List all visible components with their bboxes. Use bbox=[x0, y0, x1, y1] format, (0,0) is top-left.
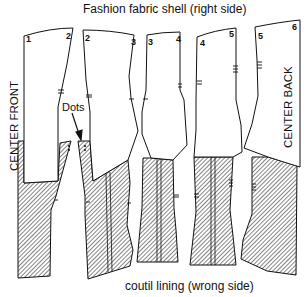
piece-number-label: 3 bbox=[148, 37, 153, 47]
lining-piece-3 bbox=[137, 158, 178, 262]
corset-pattern-diagram: Fashion fabric shell (right side) coutil… bbox=[0, 0, 306, 297]
piece-number-label: 6 bbox=[292, 22, 297, 32]
coutil-lining-pieces bbox=[18, 141, 297, 279]
center-back-label: CENTER BACK bbox=[282, 66, 294, 148]
lining-piece-4 bbox=[190, 157, 236, 265]
piece-number-label: 2 bbox=[66, 31, 71, 41]
fabric-piece-3 bbox=[142, 32, 187, 160]
piece-number-label: 2 bbox=[85, 33, 90, 43]
piece-number-label: 1 bbox=[26, 34, 31, 44]
piece-number-label: 4 bbox=[176, 34, 181, 44]
dots-arrow bbox=[72, 113, 82, 140]
coutil-lining-caption: coutil lining (wrong side) bbox=[125, 279, 254, 293]
piece-number-label: 5 bbox=[229, 29, 234, 39]
piece-number-label: 5 bbox=[258, 31, 263, 41]
fabric-piece-2 bbox=[83, 30, 138, 181]
center-front-label: CENTER FRONT bbox=[8, 81, 20, 171]
piece-number-label: 3 bbox=[131, 37, 136, 47]
lining-piece-5 bbox=[241, 157, 297, 275]
piece-number-label: 4 bbox=[200, 38, 205, 48]
dots-callout-label: Dots bbox=[62, 101, 85, 113]
fashion-fabric-caption: Fashion fabric shell (right side) bbox=[83, 2, 246, 16]
